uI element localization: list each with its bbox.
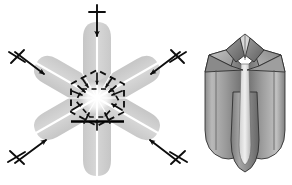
left-panel-flower bbox=[8, 5, 187, 178]
arrow-lower-right bbox=[150, 140, 187, 164]
arrow-lower-left bbox=[8, 140, 46, 164]
center-spine bbox=[239, 64, 251, 165]
origami-diagram-svg bbox=[0, 0, 292, 185]
diagram-canvas: Six-petal flower base collapsed into fol… bbox=[0, 0, 292, 185]
right-panel-model bbox=[205, 34, 285, 172]
center-glow bbox=[80, 81, 114, 115]
